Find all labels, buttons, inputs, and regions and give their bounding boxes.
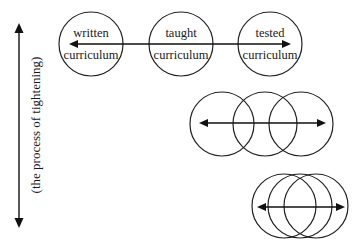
label-tested: tested — [255, 26, 285, 40]
label-written: written — [73, 26, 109, 40]
arrow-down-icon — [15, 218, 24, 228]
row-overlapping — [190, 92, 333, 156]
arrow-right-icon — [282, 40, 291, 48]
circle-1 — [190, 92, 254, 156]
row-separated: written curriculum taught curriculum tes… — [59, 12, 302, 76]
curriculum-alignment-diagram: (the process of tightening) written curr… — [0, 0, 362, 251]
arrow-up-icon — [15, 23, 24, 33]
arrow-left-icon — [199, 119, 208, 127]
tightening-axis: (the process of tightening) — [15, 23, 44, 228]
circle-2 — [233, 92, 297, 156]
row-tightly-overlapping — [252, 174, 348, 238]
label-taught: taught — [165, 26, 197, 40]
circle-2 — [268, 174, 332, 238]
label-curriculum-2: curriculum — [154, 48, 209, 62]
arrow-right-icon — [317, 119, 326, 127]
axis-label: (the process of tightening) — [28, 57, 43, 194]
arrow-left-icon — [69, 40, 78, 48]
label-curriculum-1: curriculum — [64, 48, 119, 62]
arrow-left-icon — [257, 203, 266, 211]
label-curriculum-3: curriculum — [243, 48, 298, 62]
arrow-right-icon — [336, 203, 345, 211]
